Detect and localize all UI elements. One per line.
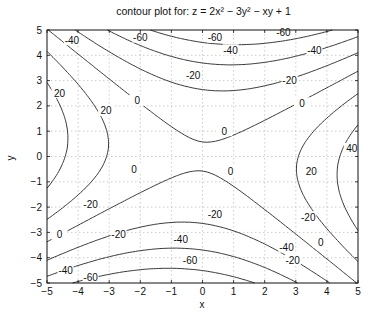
y-tick-label: 0	[36, 151, 42, 162]
contour-label: -20	[301, 212, 316, 223]
y-tick-label: 1	[36, 126, 42, 137]
y-axis-label: y	[5, 156, 16, 161]
contour-label: 20	[306, 166, 318, 177]
x-tick-label: −3	[103, 286, 115, 297]
x-tick-label: −2	[135, 286, 147, 297]
contour-label: -40	[174, 234, 189, 245]
contour-label: 0	[318, 237, 324, 248]
contour-label: -60	[133, 32, 148, 43]
y-tick-label: −1	[31, 176, 43, 187]
contour-label: -60	[183, 255, 198, 266]
contour-label: -40	[58, 265, 73, 276]
contour-label: -40	[223, 45, 238, 56]
x-tick-label: 4	[324, 286, 330, 297]
x-tick-label: 5	[355, 286, 361, 297]
contour-label: 0	[57, 229, 63, 240]
x-tick-label: −4	[72, 286, 84, 297]
x-axis-label: x	[200, 299, 205, 310]
y-tick-label: 5	[36, 25, 42, 36]
contour-label: 40	[346, 143, 358, 154]
x-tick-label: 0	[200, 286, 206, 297]
x-tick-label: −1	[166, 286, 178, 297]
contour-label: -20	[208, 209, 223, 220]
contour-label: -60	[208, 32, 223, 43]
contour-label: 0	[134, 95, 140, 106]
y-tick-label: −5	[31, 278, 43, 289]
contour-labels: -40-60-60-60-40-40-20-200002020402000-20…	[51, 27, 359, 284]
x-tick-label: 3	[293, 286, 299, 297]
y-tick-label: 3	[36, 75, 42, 86]
contour-label: -20	[111, 229, 126, 240]
x-tick-label: 1	[231, 286, 237, 297]
contour-label: 0	[221, 126, 227, 137]
contour-label: -40	[279, 242, 294, 253]
contour-label: -60	[276, 27, 291, 38]
contour-label: 0	[131, 164, 137, 175]
contour-label: 20	[54, 88, 66, 99]
contour-label: -20	[285, 255, 300, 266]
contour-label: -20	[186, 70, 201, 81]
contour-label: -40	[65, 35, 80, 46]
contour-label: -40	[307, 45, 322, 56]
y-tick-label: 4	[36, 50, 42, 61]
y-tick-label: −2	[31, 202, 43, 213]
contour-label: -20	[282, 75, 297, 86]
contour-label: 20	[101, 105, 113, 116]
contour-plot: -40-60-60-60-40-40-20-200002020402000-20…	[0, 0, 383, 320]
y-tick-label: −4	[31, 252, 43, 263]
x-tick-label: 2	[262, 286, 268, 297]
y-tick-label: −3	[31, 227, 43, 238]
contour-label: -20	[83, 199, 98, 210]
contour-label: 0	[228, 166, 234, 177]
contour-label: 0	[299, 98, 305, 109]
y-tick-label: 2	[36, 100, 42, 111]
grid-lines	[47, 30, 358, 283]
contour-label: -60	[83, 272, 98, 283]
x-tick-label: −5	[41, 286, 53, 297]
